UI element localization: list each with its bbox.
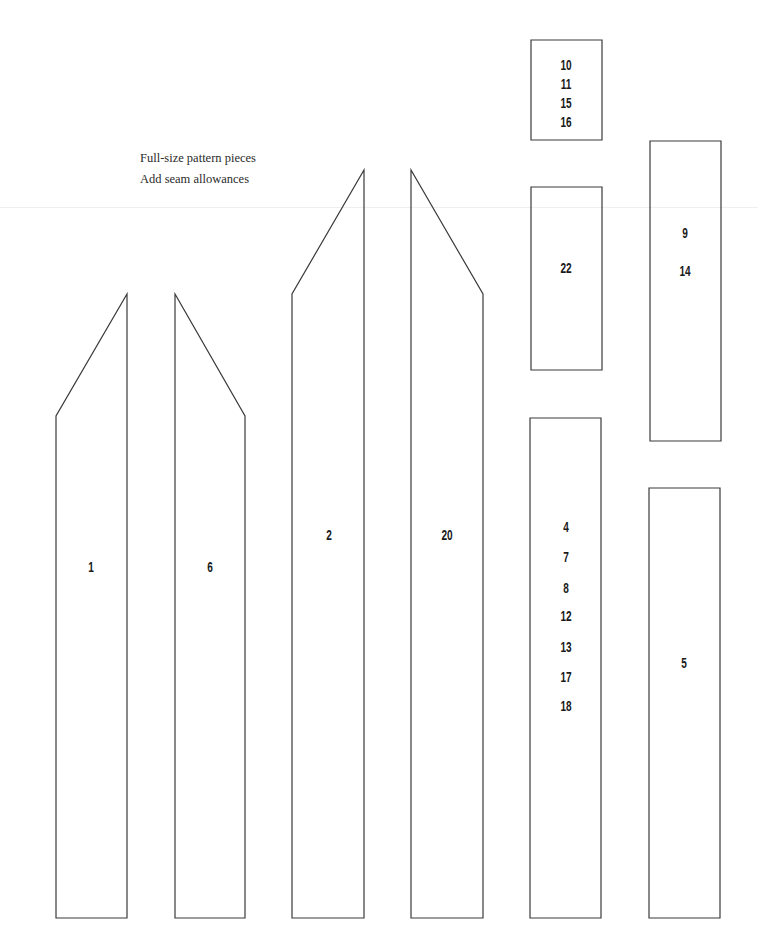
piece-number-label: 4 xyxy=(563,520,569,534)
piece-number-label: 16 xyxy=(560,115,571,129)
piece-6 xyxy=(175,294,245,918)
piece-number-label: 6 xyxy=(207,560,213,574)
piece-number-label: 7 xyxy=(563,550,569,564)
piece-number-label: 20 xyxy=(441,528,452,542)
piece-22 xyxy=(531,187,602,370)
piece-number-label: 14 xyxy=(679,264,690,278)
piece-number-label: 22 xyxy=(560,261,571,275)
piece-number-label: 15 xyxy=(560,96,571,110)
piece-number-label: 8 xyxy=(563,581,569,595)
piece-1 xyxy=(56,294,127,918)
piece-number-label: 11 xyxy=(561,77,572,91)
piece-20 xyxy=(411,170,483,918)
pattern-canvas xyxy=(0,0,758,952)
piece-9-14 xyxy=(650,141,721,441)
piece-number-label: 9 xyxy=(682,226,688,240)
piece-2 xyxy=(292,170,364,918)
piece-number-label: 13 xyxy=(560,640,571,654)
piece-number-label: 17 xyxy=(560,670,571,684)
piece-number-label: 18 xyxy=(560,699,571,713)
piece-number-label: 2 xyxy=(326,528,332,542)
piece-number-label: 5 xyxy=(681,656,687,670)
piece-number-label: 12 xyxy=(560,609,571,623)
piece-number-label: 1 xyxy=(88,560,94,574)
piece-4-7-8-12-13-17-18 xyxy=(530,418,601,918)
piece-number-label: 10 xyxy=(560,58,571,72)
piece-5 xyxy=(649,488,720,918)
